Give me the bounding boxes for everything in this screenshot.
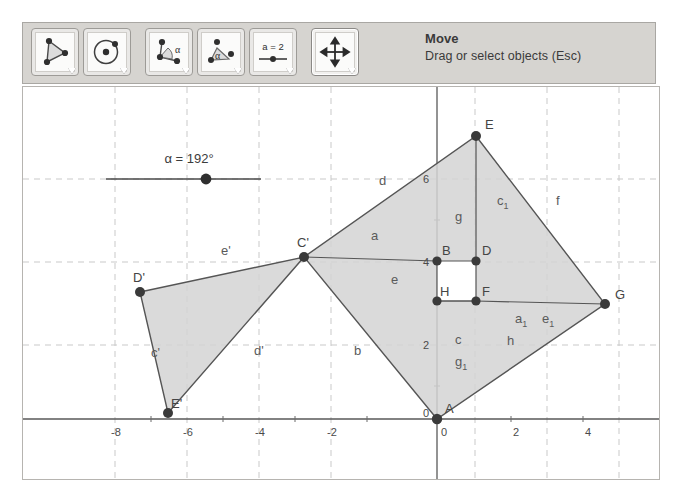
y-tick-4: 4	[423, 256, 429, 268]
label-A: A	[445, 401, 454, 416]
seg-label-e-prime: e'	[221, 243, 231, 258]
label-E: E	[485, 117, 494, 132]
point-A[interactable]	[432, 414, 442, 424]
label-H: H	[440, 284, 449, 299]
angle-fixed-tool-button[interactable]: α	[197, 28, 245, 76]
chevron-down-icon[interactable]	[182, 68, 190, 74]
alpha-slider[interactable]: α = 192°	[106, 151, 261, 184]
tool-status-title: Move	[425, 31, 649, 47]
toolbar-button-group: α α	[31, 28, 359, 76]
polygon-icon	[35, 32, 75, 72]
chevron-down-icon[interactable]	[234, 68, 242, 74]
chevron-down-icon[interactable]	[348, 68, 356, 74]
x-tick-0: 0	[441, 426, 447, 438]
point-D-prime[interactable]	[135, 287, 145, 297]
secondary-polygon[interactable]	[140, 257, 304, 413]
move-arrows-icon	[315, 32, 355, 72]
toolbar: α α	[22, 22, 656, 84]
label-E-prime: E'	[171, 396, 182, 411]
slider-value-label: α = 192°	[164, 151, 213, 166]
x-tick-4: 4	[585, 426, 591, 438]
x-tick--8: -8	[111, 426, 121, 438]
y-tick-origin: 0	[423, 407, 429, 419]
y-tick-2: 2	[423, 339, 429, 351]
point-E[interactable]	[471, 131, 481, 141]
slider-tool-button[interactable]: a = 2	[249, 28, 297, 76]
geogebra-window: α α	[0, 0, 674, 501]
point-G[interactable]	[600, 299, 610, 309]
slider-icon: a = 2	[253, 32, 293, 72]
seg-label-g: g	[455, 209, 462, 224]
label-G: G	[615, 287, 625, 302]
label-B: B	[442, 243, 451, 258]
circle-tool-button[interactable]	[83, 28, 131, 76]
point-B[interactable]	[432, 256, 441, 265]
label-F: F	[482, 284, 490, 299]
label-D: D	[482, 243, 491, 258]
circle-center-point-icon	[87, 32, 127, 72]
point-D[interactable]	[471, 256, 480, 265]
y-tick-6: 6	[423, 173, 429, 185]
label-D-prime: D'	[133, 270, 145, 285]
svg-text:α: α	[175, 44, 181, 55]
slider-icon-text: a = 2	[262, 41, 283, 52]
point-F[interactable]	[471, 296, 480, 305]
angle-fixed-size-icon: α	[201, 32, 241, 72]
angle-icon: α	[149, 32, 189, 72]
seg-label-c2: c	[455, 332, 462, 347]
seg-label-a: a	[371, 228, 379, 243]
seg-label-c-prime: c'	[151, 345, 160, 360]
x-tick--4: -4	[255, 426, 265, 438]
x-tick-2: 2	[513, 426, 519, 438]
slider-handle[interactable]	[201, 174, 212, 185]
seg-label-f: f	[556, 193, 560, 208]
label-C-prime: C'	[297, 235, 309, 250]
chevron-down-icon[interactable]	[120, 68, 128, 74]
seg-label-e: e	[391, 272, 398, 287]
svg-text:α: α	[215, 50, 221, 61]
move-tool-button[interactable]	[311, 28, 359, 76]
geometry-canvas[interactable]: E C' D' E' A G B D H F d c1 f g a e e' c…	[23, 87, 659, 479]
tool-status: Move Drag or select objects (Esc)	[425, 31, 649, 65]
polygon-tool-button[interactable]	[31, 28, 79, 76]
x-axis-tick-labels: -8 -6 -4 -2 0 2 4	[111, 426, 591, 438]
chevron-down-icon[interactable]	[286, 68, 294, 74]
x-tick--6: -6	[183, 426, 193, 438]
chevron-down-icon[interactable]	[68, 68, 76, 74]
seg-label-h: h	[507, 333, 514, 348]
graphics-view[interactable]: E C' D' E' A G B D H F d c1 f g a e e' c…	[22, 86, 660, 480]
seg-label-d-prime: d'	[254, 343, 264, 358]
point-C-prime[interactable]	[299, 252, 309, 262]
tool-status-subtitle: Drag or select objects (Esc)	[425, 48, 649, 65]
seg-label-d: d	[379, 173, 386, 188]
angle-tool-button[interactable]: α	[145, 28, 193, 76]
x-tick--2: -2	[327, 426, 337, 438]
seg-label-b: b	[354, 343, 361, 358]
